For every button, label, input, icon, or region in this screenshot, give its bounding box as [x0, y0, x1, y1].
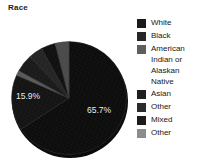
legend-item[interactable]: Asian — [137, 88, 203, 100]
legend-item-label: Mixed — [151, 114, 172, 125]
legend-swatch-icon — [137, 19, 146, 28]
legend-item[interactable]: Other — [137, 127, 203, 139]
legend: WhiteBlackAmerican Indian or Alaskan Nat… — [137, 17, 203, 140]
pie-chart: 65.7% 15.9% — [11, 41, 129, 159]
legend-swatch-icon — [137, 116, 146, 125]
legend-item[interactable]: White — [137, 17, 203, 29]
page-title: Race — [8, 3, 28, 12]
legend-swatch-icon — [137, 103, 146, 112]
legend-item-label: White — [151, 17, 171, 28]
legend-swatch-icon — [137, 45, 146, 54]
legend-item-label: Black — [151, 30, 171, 41]
pie-label-black: 15.9% — [16, 91, 40, 101]
legend-item-label: Other — [151, 101, 171, 112]
chart-screenshot: Race 65.7% 15.9% WhiteBlackAmerican Indi… — [0, 0, 205, 168]
legend-item-label: Asian — [151, 88, 171, 99]
legend-item[interactable]: Other — [137, 101, 203, 113]
pie-label-white: 65.7% — [87, 105, 111, 115]
legend-swatch-icon — [137, 129, 146, 138]
legend-item[interactable]: Mixed — [137, 114, 203, 126]
legend-item[interactable]: Black — [137, 30, 203, 42]
legend-item[interactable]: American Indian or Alaskan Native — [137, 43, 203, 87]
legend-item-label: American Indian or Alaskan Native — [151, 43, 185, 87]
legend-swatch-icon — [137, 90, 146, 99]
legend-item-label: Other — [151, 127, 171, 138]
legend-swatch-icon — [137, 32, 146, 41]
